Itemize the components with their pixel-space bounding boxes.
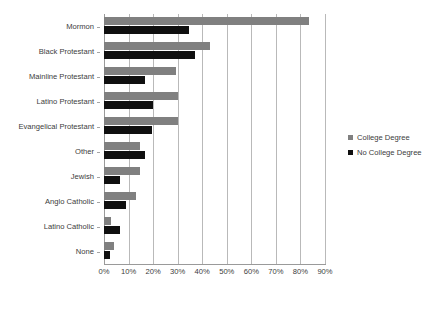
bar <box>104 192 136 200</box>
category-tick <box>97 52 100 53</box>
bar <box>104 201 126 209</box>
x-tick-label-30: 30% <box>170 267 185 276</box>
bar <box>104 101 153 109</box>
bar <box>104 17 309 25</box>
bar <box>104 92 178 100</box>
category-label: None <box>76 247 94 256</box>
category-label: Mainline Protestant <box>29 72 94 81</box>
bar <box>104 76 145 84</box>
category-label: Evangelical Protestant <box>18 122 94 131</box>
category-tick <box>97 252 100 253</box>
legend-label: College Degree <box>357 133 410 142</box>
legend-item[interactable]: No College Degree <box>348 148 443 157</box>
category-label: Latino Catholic <box>44 222 94 231</box>
bar <box>104 126 152 134</box>
bar-group <box>104 117 325 134</box>
bar-group <box>104 192 325 209</box>
bar-group <box>104 17 325 34</box>
category-tick <box>97 27 100 28</box>
bar-group <box>104 217 325 234</box>
bar <box>104 51 195 59</box>
bar <box>104 242 114 250</box>
x-tick-label-0: 0% <box>99 267 110 276</box>
category-tick <box>97 152 100 153</box>
bar <box>104 217 111 225</box>
chart-legend: College DegreeNo College Degree <box>348 133 443 163</box>
bar-group <box>104 42 325 59</box>
x-tick-label-10: 10% <box>121 267 136 276</box>
bar <box>104 167 140 175</box>
plot-area <box>104 14 325 264</box>
x-tick-label-90: 90% <box>317 267 332 276</box>
bar-group <box>104 242 325 259</box>
x-axis-tick-labels: 0%10%20%30%40%50%60%70%80%90% <box>0 267 445 283</box>
category-tick <box>97 102 100 103</box>
bar <box>104 226 120 234</box>
x-tick-label-60: 60% <box>244 267 259 276</box>
x-tick-label-80: 80% <box>293 267 308 276</box>
bar <box>104 117 178 125</box>
bar-group <box>104 92 325 109</box>
x-tick-label-40: 40% <box>195 267 210 276</box>
legend-swatch-icon <box>348 150 353 155</box>
x-axis-line <box>104 264 326 265</box>
x-tick-label-70: 70% <box>268 267 283 276</box>
category-tick <box>97 177 100 178</box>
bar-group <box>104 67 325 84</box>
bar <box>104 151 145 159</box>
bar <box>104 142 140 150</box>
category-tick <box>97 77 100 78</box>
bar-group <box>104 142 325 159</box>
bar <box>104 26 189 34</box>
bar-chart: MormonBlack ProtestantMainline Protestan… <box>0 0 445 310</box>
category-label: Black Protestant <box>39 47 94 56</box>
category-tick <box>97 127 100 128</box>
gridline-90 <box>325 14 326 264</box>
category-tick <box>97 227 100 228</box>
category-axis: MormonBlack ProtestantMainline Protestan… <box>0 14 100 264</box>
bar-groups <box>104 14 325 264</box>
category-label: Anglo Catholic <box>45 197 94 206</box>
legend-label: No College Degree <box>357 148 422 157</box>
bar <box>104 251 110 259</box>
bar <box>104 67 176 75</box>
x-tick-label-20: 20% <box>146 267 161 276</box>
bar-group <box>104 167 325 184</box>
category-label: Latino Protestant <box>37 97 94 106</box>
x-tick-label-50: 50% <box>219 267 234 276</box>
category-label: Other <box>75 147 94 156</box>
bar <box>104 176 120 184</box>
category-label: Jewish <box>71 172 94 181</box>
legend-item[interactable]: College Degree <box>348 133 443 142</box>
category-tick <box>97 202 100 203</box>
legend-swatch-icon <box>348 135 353 140</box>
bar <box>104 42 210 50</box>
category-label: Mormon <box>66 22 94 31</box>
